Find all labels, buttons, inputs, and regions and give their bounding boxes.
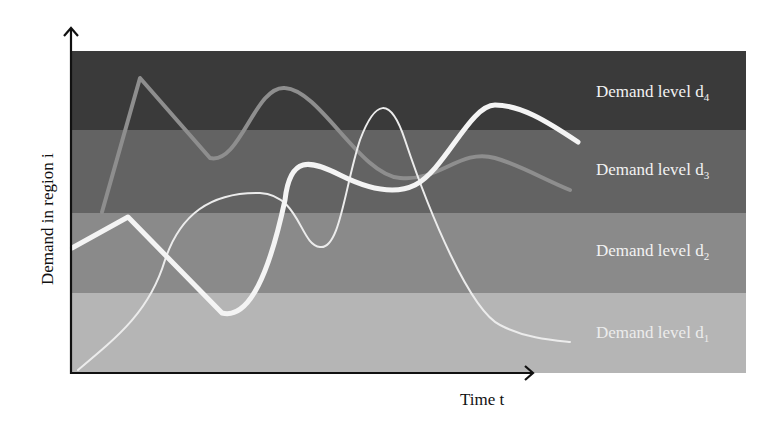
y-axis-label: Demand in region i xyxy=(38,153,58,285)
band-label-d4: Demand level d4 xyxy=(596,82,709,103)
band-label-d3-text: Demand level d xyxy=(596,160,704,179)
band-label-d4-sub: 4 xyxy=(704,91,710,103)
band-label-d4-text: Demand level d xyxy=(596,82,704,101)
band-label-d3: Demand level d3 xyxy=(596,160,709,181)
band-label-d2-text: Demand level d xyxy=(596,241,704,260)
band-label-d1: Demand level d1 xyxy=(596,323,709,344)
band-label-d1-sub: 1 xyxy=(704,332,710,344)
band-label-d2-sub: 2 xyxy=(704,250,710,262)
x-axis-label: Time t xyxy=(460,390,504,410)
demand-chart xyxy=(0,0,781,431)
band-label-d3-sub: 3 xyxy=(704,169,710,181)
band-label-d2: Demand level d2 xyxy=(596,241,709,262)
band-label-d1-text: Demand level d xyxy=(596,323,704,342)
